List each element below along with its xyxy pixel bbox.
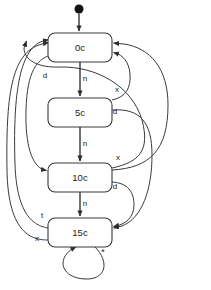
state-label-0c: 0c [75,42,85,53]
edge-label-n-0c-5c: n [83,74,87,83]
state-label-15c: 15c [72,227,88,238]
initial-state-dot [75,5,84,14]
edge-label-x-5c-0c: x [115,85,119,94]
edge-label-n-10c-15c: n [83,199,87,208]
edge-label-x-10c-0c: x [116,153,120,162]
edge-label-t-15c-0c: t [41,211,44,220]
state-diagram-svg: 0c (outermost left) --> 0c (second left)… [0,0,211,290]
edge-label-x-15c-0c: x [35,234,39,243]
edge-label-n-5c-10c: n [83,139,87,148]
state-label-5c: 5c [75,107,85,118]
edge-label-d-10c-15c: d [113,182,117,191]
edge-5c-to-15c-d [112,110,152,228]
edge-label-d-0c-10c: d [43,71,47,80]
edge-10c-to-0c-x-outer [112,43,168,170]
edge-label-star-15c-self: * [101,247,105,257]
edge-15c-to-0c-t [15,40,49,229]
edge-label-d-5c-15c: d [113,107,117,116]
state-diagram-canvas: 0c (outermost left) --> 0c (second left)… [0,0,211,290]
state-label-10c: 10c [72,172,88,183]
edge-15c-self-loop-star [63,247,104,279]
